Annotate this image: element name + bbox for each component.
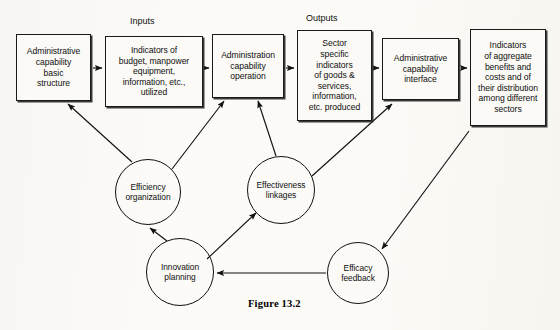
circle-text-line: feedback: [341, 273, 375, 283]
box-text-line: among different: [478, 93, 538, 104]
box-indicators-of-budget-manpower: Indicators ofbudget, manpowerequipment,i…: [105, 36, 203, 107]
figure-caption: Figure 13.2: [248, 298, 301, 309]
box-administration-capability-operation: Administrationcapabilityoperation: [212, 34, 284, 98]
box-text-line: specific: [309, 49, 360, 60]
circle-text-line: organization: [125, 192, 170, 202]
circle-text-line: Effectiveness: [256, 180, 305, 190]
circle-text-line: Efficiency: [125, 182, 170, 192]
box-text-line: Indicators: [478, 40, 538, 51]
inputs-label: Inputs: [130, 16, 155, 27]
box-text-line: Administrative: [27, 46, 80, 57]
outputs-label: Outputs: [306, 13, 338, 24]
circle-text-line: planning: [161, 272, 199, 282]
edge-aggregate-to-efficacy: [382, 131, 469, 249]
box-text-line: of goods &: [309, 70, 360, 81]
box-text-line: of aggregate: [478, 51, 538, 62]
box-text-line: etc. produced: [309, 102, 360, 113]
box-text-line: Indicators of: [119, 45, 189, 56]
box-administrative-capability-basic-structure: Administrativecapabilitybasicstructure: [16, 34, 91, 101]
box-administrative-capability-interface: Administrativecapabilityinterface: [382, 38, 459, 100]
circle-text-line: Innovation: [161, 262, 199, 272]
edge-innovation-to-effectiveness: [207, 213, 256, 259]
box-text-line: indicators: [309, 60, 360, 71]
circle-text-line: Efficacy: [341, 263, 375, 273]
edge-effectiveness-to-operation: [258, 101, 276, 156]
box-text-line: information,: [309, 91, 360, 102]
box-text-line: Administration: [221, 50, 275, 61]
edge-efficiency-to-basic-structure: [68, 104, 132, 162]
figure-diagram-canvas: AdministrativecapabilitybasicstructureIn…: [0, 0, 560, 330]
box-text-line: budget, manpower: [119, 56, 189, 67]
box-text-line: operation: [221, 71, 275, 82]
box-text-line: basic: [27, 68, 80, 79]
box-text-line: sectors: [478, 104, 538, 115]
circle-innovation-planning: Innovationplanning: [146, 238, 214, 306]
box-text-line: Administrative: [394, 53, 447, 64]
box-text-line: utilized: [119, 87, 189, 98]
circle-effectiveness-linkages: Effectivenesslinkages: [247, 156, 315, 224]
box-text-line: information, etc.,: [119, 77, 189, 88]
box-text-line: capability: [394, 64, 447, 75]
box-text-line: structure: [27, 78, 80, 89]
circle-efficiency-organization: Efficiencyorganization: [115, 159, 181, 225]
box-text-line: capability: [221, 61, 275, 72]
box-text-line: Sector: [309, 38, 360, 49]
circle-efficacy-feedback: Efficacyfeedback: [327, 242, 389, 304]
box-text-line: capability: [27, 57, 80, 68]
box-text-line: equipment,: [119, 66, 189, 77]
box-text-line: benefits and: [478, 62, 538, 73]
edge-efficiency-to-operation: [172, 101, 224, 169]
box-indicators-of-aggregate-benefits: Indicatorsof aggregatebenefits andcosts …: [470, 29, 546, 126]
box-text-line: services,: [309, 81, 360, 92]
box-text-line: their distribution: [478, 83, 538, 94]
circle-text-line: linkages: [256, 190, 305, 200]
box-text-line: costs and of: [478, 72, 538, 83]
edge-innovation-to-efficiency: [150, 228, 167, 241]
box-sector-specific-indicators: Sectorspecificindicatorsof goods &servic…: [297, 30, 372, 121]
box-text-line: interface: [394, 74, 447, 85]
